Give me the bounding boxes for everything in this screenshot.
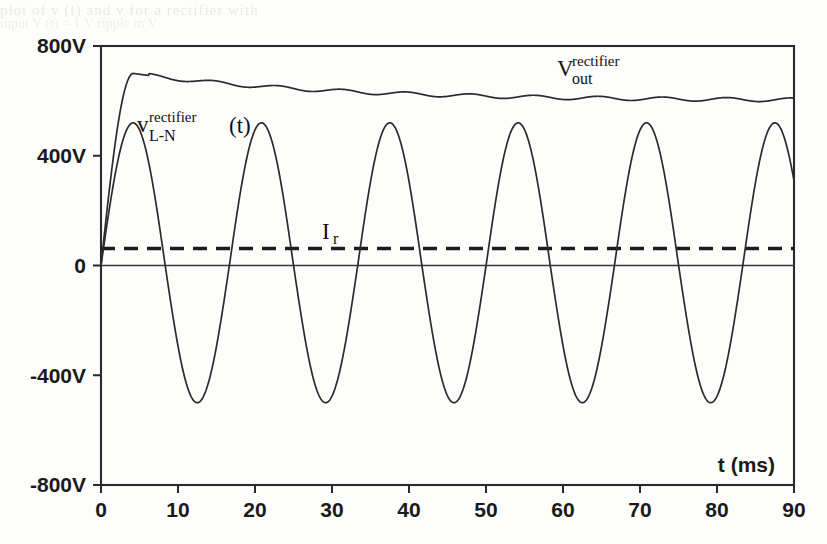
vln-label-base: v — [137, 112, 149, 137]
y-axis-ticks — [93, 46, 101, 485]
x-tick-label-70: 70 — [628, 498, 651, 521]
x-tick-label-50: 50 — [474, 498, 497, 521]
vln-sine-curve — [101, 123, 794, 403]
x-tick-label-20: 20 — [243, 498, 266, 521]
rectifier-waveform-figure: plot of v (t) and v for a rectifier with… — [0, 0, 827, 544]
vln-label-subscript: L-N — [149, 127, 176, 144]
x-tick-label-80: 80 — [705, 498, 728, 521]
vout-rectified-curve — [101, 73, 794, 265]
ir-label: I r — [322, 219, 339, 247]
vln-label-suffix: (t) — [229, 113, 251, 138]
x-tick-label-90: 90 — [782, 498, 805, 521]
y-tick-label-0: 0 — [74, 254, 86, 277]
vln-label-superscript: rectifier — [149, 109, 196, 125]
chart-svg: 800V 400V 0 -400V -800V 0 10 20 30 40 50… — [0, 0, 827, 544]
ir-label-subscript: r — [333, 230, 339, 247]
y-tick-label-neg400: -400V — [30, 364, 86, 387]
vout-label: V rectifier out — [557, 53, 619, 87]
y-tick-label-400: 400V — [37, 144, 86, 167]
x-tick-label-30: 30 — [320, 498, 343, 521]
x-axis-ticks — [101, 485, 794, 493]
x-tick-label-10: 10 — [166, 498, 189, 521]
x-axis-title: t (ms) — [718, 453, 775, 476]
x-tick-label-40: 40 — [397, 498, 420, 521]
vout-label-superscript: rectifier — [572, 53, 619, 69]
x-tick-label-0: 0 — [95, 498, 107, 521]
vln-label: v rectifier L-N (t) — [137, 109, 251, 144]
ir-label-base: I — [322, 219, 330, 244]
x-tick-label-60: 60 — [551, 498, 574, 521]
y-tick-label-800: 800V — [37, 34, 86, 57]
y-tick-label-neg800: -800V — [30, 473, 86, 496]
vout-label-subscript: out — [572, 70, 593, 87]
